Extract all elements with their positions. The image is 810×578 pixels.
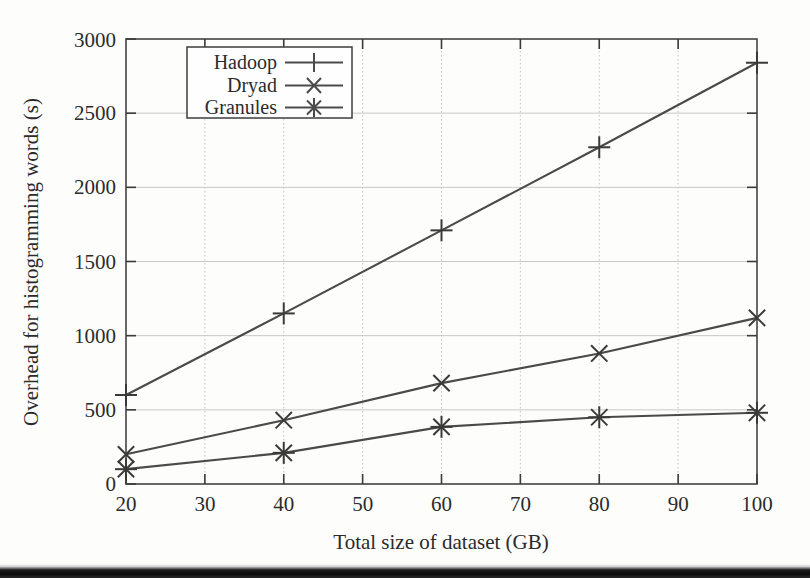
x-tick-labels: 20 30 40 50 60 70 80 90 100 bbox=[116, 492, 773, 516]
page-bottom-rule bbox=[0, 564, 810, 578]
y-tick-label: 1500 bbox=[74, 250, 116, 274]
line-chart: 0 500 1000 1500 2000 2500 3000 20 30 40 … bbox=[0, 0, 810, 560]
legend-label-hadoop: Hadoop bbox=[214, 51, 277, 74]
asterisk-marker bbox=[746, 402, 768, 424]
x-tick-label: 30 bbox=[194, 492, 215, 516]
x-axis-title: Total size of dataset (GB) bbox=[333, 530, 548, 554]
asterisk-marker bbox=[588, 406, 610, 428]
y-tick-label: 3000 bbox=[74, 28, 116, 52]
y-tick-label: 0 bbox=[106, 472, 117, 496]
y-tick-label: 500 bbox=[85, 398, 117, 422]
y-tick-label: 2500 bbox=[74, 101, 116, 125]
y-tick-label: 2000 bbox=[74, 175, 116, 199]
x-tick-label: 70 bbox=[510, 492, 531, 516]
asterisk-marker bbox=[115, 458, 137, 480]
chart-legend: Hadoop Dryad Granules bbox=[187, 47, 352, 118]
y-tick-label: 1000 bbox=[74, 324, 116, 348]
x-tick-label: 90 bbox=[668, 492, 689, 516]
x-tick-label: 20 bbox=[116, 492, 137, 516]
asterisk-marker bbox=[431, 416, 453, 438]
x-tick-label: 60 bbox=[431, 492, 452, 516]
y-axis-title: Overhead for histogramming words (s) bbox=[19, 98, 43, 426]
x-tick-label: 40 bbox=[273, 492, 294, 516]
x-tick-label: 100 bbox=[741, 492, 773, 516]
asterisk-marker bbox=[273, 442, 295, 464]
legend-label-dryad: Dryad bbox=[227, 74, 277, 97]
chart-figure: 0 500 1000 1500 2000 2500 3000 20 30 40 … bbox=[0, 0, 810, 560]
legend-label-granules: Granules bbox=[205, 96, 277, 118]
x-tick-label: 50 bbox=[352, 492, 373, 516]
chart-background bbox=[0, 0, 810, 560]
x-tick-label: 80 bbox=[589, 492, 610, 516]
figure-page: 0 500 1000 1500 2000 2500 3000 20 30 40 … bbox=[0, 0, 810, 578]
